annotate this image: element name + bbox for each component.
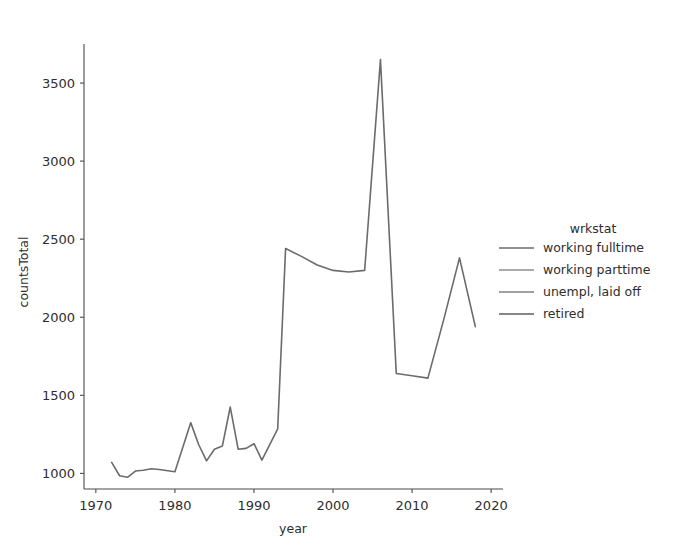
y-axis-tick-labels: 100015002000250030003500 <box>42 76 75 481</box>
legend-entry-label: unempl, laid off <box>543 284 641 299</box>
x-tick-label: 1990 <box>237 498 270 513</box>
y-tick-label: 1000 <box>42 466 75 481</box>
legend-entry-label: retired <box>543 306 584 321</box>
x-tick-label: 2010 <box>396 498 429 513</box>
y-tick-label: 3500 <box>42 76 75 91</box>
x-axis-ticks <box>96 489 491 493</box>
x-tick-label: 2020 <box>475 498 508 513</box>
legend-entry-list: working fulltimeworking parttimeunempl, … <box>499 240 651 321</box>
y-axis-ticks <box>80 83 84 473</box>
y-tick-label: 2000 <box>42 310 75 325</box>
y-axis-label: countsTotal <box>16 237 31 308</box>
legend-entry-label: working parttime <box>543 262 651 277</box>
y-tick-label: 1500 <box>42 388 75 403</box>
x-axis-tick-labels: 197019801990200020102020 <box>79 498 507 513</box>
x-axis-label: year <box>279 521 308 536</box>
x-tick-label: 1970 <box>79 498 112 513</box>
chart-legend: wrkstat working fulltimeworking parttime… <box>499 221 651 321</box>
chart-canvas: 100015002000250030003500 197019801990200… <box>0 0 687 545</box>
y-tick-label: 2500 <box>42 232 75 247</box>
legend-title: wrkstat <box>570 221 617 236</box>
data-line-series <box>112 60 476 478</box>
legend-entry-label: working fulltime <box>543 240 644 255</box>
x-tick-label: 2000 <box>316 498 349 513</box>
chart-figure: 100015002000250030003500 197019801990200… <box>0 0 687 545</box>
y-tick-label: 3000 <box>42 154 75 169</box>
chart-title-clipped <box>0 0 520 4</box>
x-tick-label: 1980 <box>158 498 191 513</box>
